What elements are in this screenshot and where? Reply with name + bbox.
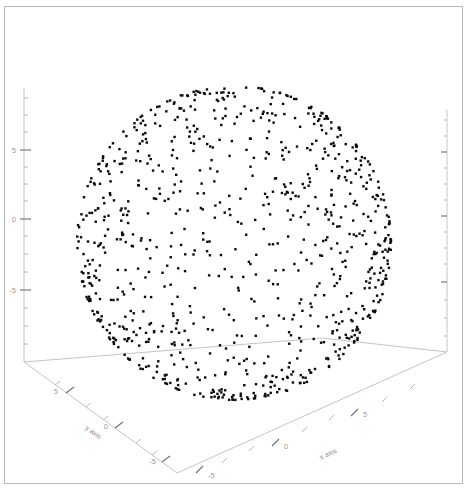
x-tick-label-neg5: -5 [208, 471, 215, 480]
z-tick-label-neg5: -5 [9, 286, 16, 295]
x-axis-floor-right [177, 352, 447, 473]
z-tick-label-5: 5 [12, 146, 16, 155]
z-axis-right-ticks [441, 120, 447, 336]
scatter3d-figure: 5 0 -5 [0, 0, 468, 491]
floor-back-edges [24, 338, 447, 362]
z-axis-ticks [20, 98, 31, 344]
x-axis-title: x axis [318, 447, 338, 461]
y-tick-label-0: 0 [104, 422, 108, 431]
y-axis-ticks [55, 381, 170, 462]
x-tick-label-5: 5 [363, 410, 367, 419]
y-tick-label-neg5: -5 [149, 457, 156, 466]
y-axis-title: y axis [84, 424, 104, 441]
axes-group: 5 0 -5 [0, 0, 468, 491]
x-axis-ticks [196, 384, 415, 473]
z-tick-label-0: 0 [12, 215, 16, 224]
x-tick-label-0: 0 [284, 442, 288, 451]
y-tick-label-5: 5 [54, 387, 58, 396]
